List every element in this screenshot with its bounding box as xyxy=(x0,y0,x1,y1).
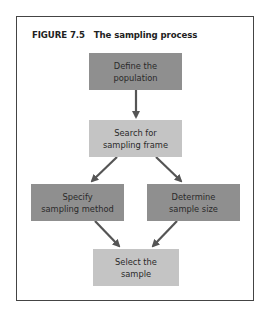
node-search-sampling-frame: Search forsampling frame xyxy=(89,120,182,157)
node-determine-sample-size: Determinesample size xyxy=(147,184,240,221)
node-select-sample: Select thesample xyxy=(93,249,179,286)
arrow-determine-to-select xyxy=(153,221,177,246)
node-define-population: Define thepopulation xyxy=(89,53,182,90)
arrow-specify-to-select xyxy=(95,221,119,246)
node-specify-sampling-method: Specifysampling method xyxy=(31,184,124,221)
arrow-search-to-specify xyxy=(92,157,117,181)
arrow-search-to-determine xyxy=(156,157,181,181)
